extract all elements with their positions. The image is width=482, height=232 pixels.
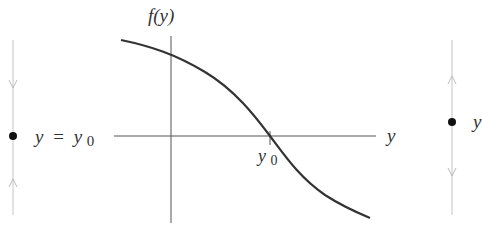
left-phase-line: y = y 0 [9, 40, 94, 215]
equilibrium-dot [448, 118, 456, 126]
diagram-canvas: y = y 0 f(y) y y 0 y [0, 0, 482, 232]
x-axis-label: y [385, 125, 396, 146]
right-phase-line: y [448, 40, 482, 215]
f-curve [121, 40, 370, 218]
y-axis-label: f(y) [148, 5, 174, 27]
equilibrium-label: y [471, 111, 482, 132]
function-graph: f(y) y y 0 [114, 5, 396, 223]
equilibrium-dot [9, 132, 17, 140]
diagram-svg: y = y 0 f(y) y y 0 y [0, 0, 482, 232]
equilibrium-label: y = y 0 [33, 126, 94, 149]
y0-tick-label: y 0 [256, 146, 278, 168]
